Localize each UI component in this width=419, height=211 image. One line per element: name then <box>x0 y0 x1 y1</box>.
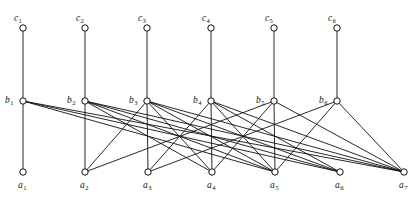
vertex-c1[interactable] <box>20 25 26 31</box>
edge-b3-a2 <box>87 103 145 169</box>
vertex-label-a1: a1 <box>18 180 26 191</box>
vertex-label-sub-a2: 2 <box>85 184 88 191</box>
edge-b1-a6 <box>26 102 337 172</box>
node-label-group: c1c2c3c4c5c6b1b2b3b4b5b6a1a2a3a4a5a6a7 <box>5 13 408 191</box>
vertex-label-sub-b5: 5 <box>261 99 265 106</box>
vertex-b5[interactable] <box>271 98 277 104</box>
vertex-label-a5: a5 <box>270 180 279 191</box>
bipartite-graph-figure: c1c2c3c4c5c6b1b2b3b4b5b6a1a2a3a4a5a6a7 <box>0 0 419 211</box>
vertex-c6[interactable] <box>334 25 340 31</box>
vertex-label-a4: a4 <box>207 180 216 191</box>
vertex-label-sub-c6: 6 <box>333 17 337 24</box>
vertex-label-sub-c5: 5 <box>270 17 274 24</box>
vertex-label-sub-b2: 2 <box>72 99 75 106</box>
vertex-a4[interactable] <box>209 169 215 175</box>
vertex-label-b3: b3 <box>129 95 138 106</box>
vertex-a3[interactable] <box>145 169 151 175</box>
vertex-label-sub-a6: 6 <box>340 184 344 191</box>
edge-b2-a6 <box>88 102 337 171</box>
vertex-label-a3: a3 <box>143 180 152 191</box>
vertex-label-b2: b2 <box>67 95 75 106</box>
vertex-label-a7: a7 <box>399 180 408 191</box>
vertex-label-sub-a7: 7 <box>404 184 408 191</box>
edge-b4-a4 <box>211 104 212 169</box>
vertex-label-c5: c5 <box>265 13 274 24</box>
vertex-label-c3: c3 <box>138 13 147 24</box>
vertex-label-b1: b1 <box>5 95 13 106</box>
vertex-a2[interactable] <box>82 169 88 175</box>
vertex-label-sub-c2: 2 <box>81 17 84 24</box>
vertex-label-sub-a3: 3 <box>148 184 152 191</box>
vertex-b6[interactable] <box>334 98 340 104</box>
edge-group-c-to-b <box>23 31 337 98</box>
vertex-label-sub-a5: 5 <box>275 184 279 191</box>
vertex-label-c6: c6 <box>328 13 337 24</box>
vertex-b2[interactable] <box>82 98 88 104</box>
vertex-label-sub-a1: 1 <box>23 184 26 191</box>
vertex-a6[interactable] <box>337 169 343 175</box>
vertex-label-a2: a2 <box>80 180 88 191</box>
vertex-c4[interactable] <box>208 25 214 31</box>
vertex-label-sub-a4: 4 <box>212 184 216 191</box>
vertex-a1[interactable] <box>20 169 26 175</box>
vertex-label-a6: a6 <box>335 180 344 191</box>
vertex-label-sub-c4: 4 <box>207 17 211 24</box>
vertex-a7[interactable] <box>401 169 407 175</box>
vertex-label-b6: b6 <box>319 95 328 106</box>
vertex-label-b5: b5 <box>256 95 265 106</box>
vertex-c3[interactable] <box>144 25 150 31</box>
vertex-b4[interactable] <box>208 98 214 104</box>
vertex-label-sub-c3: 3 <box>143 17 147 24</box>
vertex-label-sub-b4: 4 <box>198 99 202 106</box>
vertex-b1[interactable] <box>20 98 26 104</box>
vertex-label-c2: c2 <box>76 13 84 24</box>
vertex-b3[interactable] <box>144 98 150 104</box>
vertex-label-sub-c1: 1 <box>19 17 22 24</box>
edge-group-b-to-a <box>23 102 402 172</box>
vertex-label-c4: c4 <box>202 13 211 24</box>
edge-b5-a5 <box>274 104 275 169</box>
vertex-c5[interactable] <box>271 25 277 31</box>
vertex-label-b4: b4 <box>193 95 202 106</box>
vertex-label-sub-b1: 1 <box>10 99 13 106</box>
vertex-c2[interactable] <box>82 25 88 31</box>
vertex-a5[interactable] <box>272 169 278 175</box>
edge-b3-a3 <box>147 104 148 169</box>
vertex-label-sub-b6: 6 <box>324 99 328 106</box>
figure-root: c1c2c3c4c5c6b1b2b3b4b5b6a1a2a3a4a5a6a7 <box>0 0 419 211</box>
node-group <box>20 25 407 175</box>
vertex-label-c1: c1 <box>14 13 22 24</box>
vertex-label-sub-b3: 3 <box>134 99 138 106</box>
